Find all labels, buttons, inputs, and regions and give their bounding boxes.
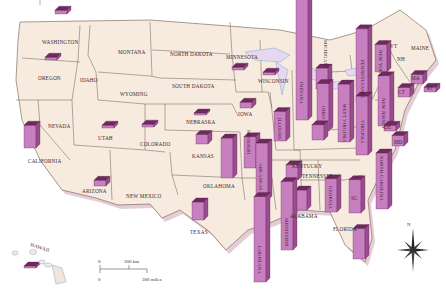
bar-california	[24, 121, 40, 148]
hawaii-islands	[12, 250, 66, 285]
state-label-arizona: ARIZONA	[82, 188, 107, 194]
compass-north-label: N	[407, 222, 411, 227]
bar-washington	[55, 6, 71, 14]
state-label-oregon: OREGON	[38, 75, 61, 81]
bar-side	[266, 193, 270, 283]
state-label-nebraska: NEBRASKA	[186, 119, 216, 125]
bar-side	[350, 80, 354, 142]
state-label-vt: VT	[390, 43, 398, 49]
bar-alabama	[295, 186, 311, 210]
bar-kansas	[196, 131, 212, 145]
state-label-md: MD	[394, 139, 403, 145]
state-label-ohio: OHIO	[321, 106, 326, 119]
scale-bar	[100, 265, 147, 273]
bar-side	[286, 108, 290, 141]
state-label-nevada: NEVADA	[48, 123, 70, 129]
scale-km-label: 300 km	[124, 259, 139, 264]
state-label-michigan: MICHIGAN	[323, 40, 328, 66]
bar-side	[368, 25, 372, 102]
bar-front	[45, 57, 57, 60]
bar-front	[24, 125, 36, 148]
bar-side	[268, 139, 272, 200]
bar-front	[312, 125, 324, 140]
state-label-west-virginia: WEST VIRGINIA	[342, 104, 347, 143]
state-label-texas: TEXAS	[190, 229, 208, 235]
scale-miles-label: 300 miles	[142, 277, 162, 282]
state-label-south-dakota: SOUTH DAKOTA	[172, 83, 215, 89]
bar-iowa	[240, 98, 256, 108]
bar-front	[232, 67, 244, 70]
map-canvas: WASHINGTONOREGONIDAHOMONTANAWYOMINGNORTH…	[0, 0, 446, 290]
bar-front	[240, 102, 252, 108]
state-label-sc: SC	[351, 195, 358, 201]
state-label-new-york: NEW YORK	[378, 50, 383, 77]
bar-side	[36, 121, 40, 148]
state-label-pennsylvania: PENNSYLVANIA	[360, 60, 365, 99]
state-label-ma: MA	[411, 75, 420, 81]
state-label-montana: MONTANA	[118, 49, 146, 55]
state-label-georgia: GEORGIA	[328, 186, 333, 209]
bar-front	[55, 10, 67, 14]
state-label-idaho: IDAHO	[80, 77, 98, 83]
bar-side	[308, 0, 312, 120]
state-label-colorado: COLORADO	[140, 141, 170, 147]
state-label-washington: WASHINGTON	[42, 39, 79, 45]
state-label-minnesota: MINNESOTA	[226, 54, 258, 60]
state-label-wyoming: WYOMING	[120, 91, 148, 97]
state-label-florida: FLORIDA	[333, 226, 357, 232]
bar-side	[329, 80, 333, 132]
bar-side	[390, 72, 394, 126]
state-label-missouri: MISSOURI	[246, 130, 251, 155]
bar-side	[233, 134, 237, 178]
bar-side	[361, 176, 365, 213]
bar-front	[194, 113, 206, 115]
state-label-virginia: VIRGINIA	[360, 120, 365, 144]
bar-side	[365, 225, 369, 259]
state-label-de: DE	[384, 124, 391, 130]
bar-side	[368, 92, 372, 155]
bar-side	[337, 175, 341, 212]
state-label-new-mexico: NEW MEXICO	[126, 193, 162, 199]
state-label-maine: MAINE	[411, 45, 429, 51]
scale-zero-km: 0	[98, 259, 101, 264]
state-label-tennessee: TENNESSEE	[302, 173, 333, 179]
state-label-california: CALIFORNIA	[28, 158, 61, 164]
bar-front	[196, 135, 208, 145]
state-label-mississippi: MISSISSIPPI	[284, 218, 289, 247]
state-label-north-carolina: NORTH CAROLINA	[379, 156, 384, 201]
state-label-ct: CT	[398, 89, 406, 95]
state-label-kentucky: KENTUCKY	[292, 163, 322, 169]
bar-side	[388, 149, 392, 209]
state-label-illinois: ILLINOIS	[277, 118, 282, 140]
bar-texas	[192, 198, 208, 220]
bar-front	[192, 202, 204, 220]
state-label-louisiana: LOUISIANA	[257, 246, 262, 274]
us-bar-map: WASHINGTONOREGONIDAHOMONTANAWYOMINGNORTH…	[0, 0, 446, 290]
bar-front	[263, 72, 275, 75]
state-label-oklahoma: OKLAHOMA	[203, 183, 235, 189]
bar-front	[353, 229, 365, 259]
compass-rose-icon	[397, 228, 429, 272]
state-label-kansas: KANSAS	[192, 153, 214, 159]
bar-kentucky	[312, 121, 328, 140]
state-label-ri: RI	[427, 85, 433, 91]
bar-front	[142, 124, 154, 127]
scale-zero-miles: 0	[98, 277, 101, 282]
bar-hawaii	[24, 262, 40, 268]
state-label-wisconsin: WISCONSIN	[258, 78, 289, 84]
state-label-arkansas: ARKANSAS	[258, 163, 263, 191]
bar-front	[94, 180, 106, 186]
state-label-north-dakota: NORTH DAKOTA	[170, 51, 213, 57]
state-label-nh: NH	[397, 56, 405, 62]
state-label-indiana: INDIANA	[299, 82, 304, 104]
bar-oklahoma	[221, 134, 237, 178]
state-label-alabama: ALABAMA	[290, 213, 318, 219]
bar-front	[102, 125, 114, 128]
state-label-utah: UTAH	[98, 135, 113, 141]
bar-arizona	[94, 176, 110, 186]
bar-front	[24, 266, 36, 268]
bar-front	[221, 138, 233, 178]
state-label-iowa: IOWA	[238, 111, 252, 117]
